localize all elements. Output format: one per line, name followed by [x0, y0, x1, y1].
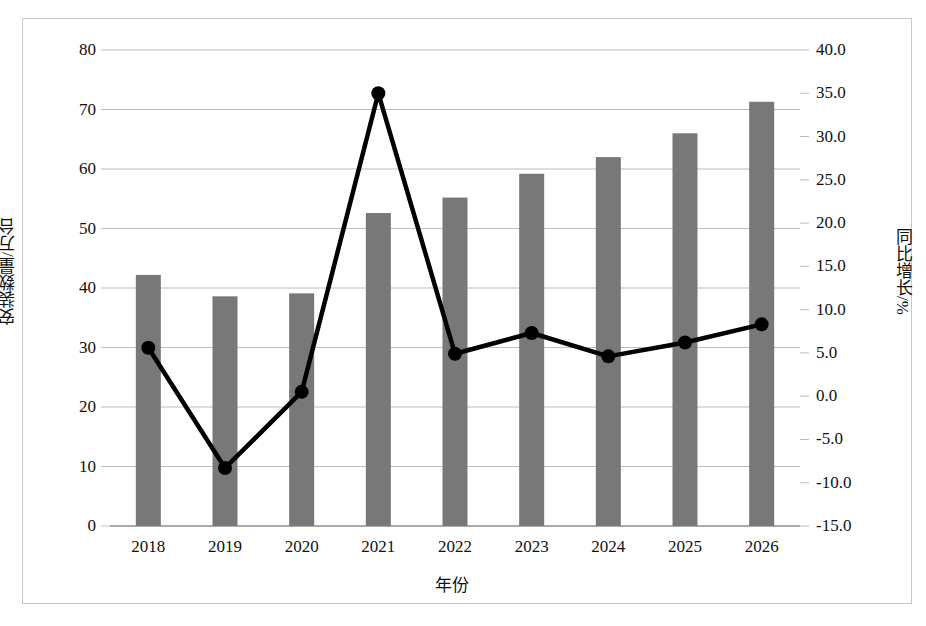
x-tick-label: 2024: [568, 538, 648, 555]
line-marker[interactable]: [371, 86, 385, 100]
y-tick-label-left: 60: [40, 160, 96, 177]
line-marker[interactable]: [525, 326, 539, 340]
y-tick-label-left: 0: [40, 517, 96, 534]
line-marker[interactable]: [448, 347, 462, 361]
y-tick-label-right: 15.0: [816, 257, 886, 274]
y-tick-label-left: 10: [40, 458, 96, 475]
x-tick-label: 2018: [108, 538, 188, 555]
x-tick-label: 2022: [415, 538, 495, 555]
y-tick-label-right: 35.0: [816, 84, 886, 101]
y-tick-label-left: 30: [40, 339, 96, 356]
bar[interactable]: [596, 157, 621, 526]
y-tick-label-right: 30.0: [816, 128, 886, 145]
y-tick-label-left: 20: [40, 398, 96, 415]
y-tick-label-right: -15.0: [816, 517, 886, 534]
x-tick-label: 2019: [185, 538, 265, 555]
line-marker[interactable]: [755, 317, 769, 331]
bar[interactable]: [213, 296, 238, 526]
bar[interactable]: [136, 275, 161, 526]
x-tick-label: 2020: [262, 538, 342, 555]
y-tick-label-right: 10.0: [816, 301, 886, 318]
x-axis-label: 年份: [435, 571, 469, 596]
y-tick-label-right: 0.0: [816, 387, 886, 404]
y-axis-label-left: 安装数量/万台: [0, 218, 20, 325]
y-tick-label-left: 50: [40, 220, 96, 237]
line-marker[interactable]: [218, 461, 232, 475]
x-tick-label: 2023: [492, 538, 572, 555]
bar[interactable]: [749, 102, 774, 526]
x-tick-label: 2021: [338, 538, 418, 555]
y-tick-label-right: -5.0: [816, 430, 886, 447]
combo-chart: 01020304050607080-15.0-10.0-5.00.05.010.…: [0, 0, 926, 626]
bar[interactable]: [289, 293, 314, 526]
x-tick-label: 2026: [722, 538, 802, 555]
bar[interactable]: [366, 213, 391, 526]
chart-canvas: [0, 0, 926, 626]
bar[interactable]: [673, 133, 698, 526]
y-tick-label-left: 70: [40, 101, 96, 118]
line-marker[interactable]: [601, 349, 615, 363]
y-axis-label-right: 同比增长/%: [890, 228, 915, 315]
y-tick-label-right: 5.0: [816, 344, 886, 361]
y-tick-label-right: 20.0: [816, 214, 886, 231]
line-marker[interactable]: [141, 341, 155, 355]
y-tick-label-left: 80: [40, 41, 96, 58]
y-tick-label-right: 25.0: [816, 171, 886, 188]
bar[interactable]: [443, 198, 468, 526]
y-tick-label-left: 40: [40, 279, 96, 296]
line-marker[interactable]: [295, 385, 309, 399]
bar[interactable]: [519, 174, 544, 526]
line-marker[interactable]: [678, 336, 692, 350]
y-tick-label-right: 40.0: [816, 41, 886, 58]
x-tick-label: 2025: [645, 538, 725, 555]
y-tick-label-right: -10.0: [816, 474, 886, 491]
